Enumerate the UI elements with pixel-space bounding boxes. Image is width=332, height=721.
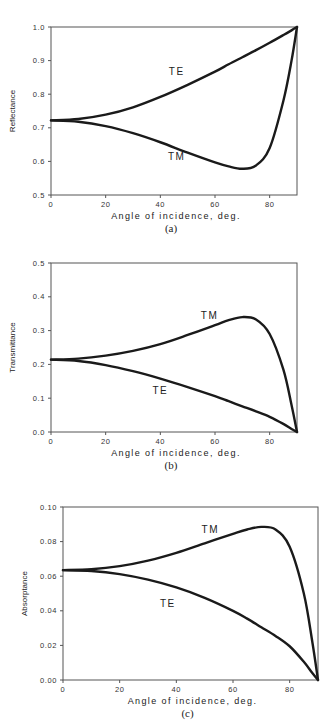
plot-frame bbox=[51, 27, 297, 195]
x-tick-label: 80 bbox=[285, 685, 295, 694]
reflectance-chart: 0.50.60.70.80.91.0020406080Angle of inci… bbox=[0, 0, 332, 240]
chart-panel-b: 0.00.10.20.30.40.5020406080Angle of inci… bbox=[0, 240, 332, 480]
x-tick-label: 80 bbox=[265, 437, 275, 446]
series-label-te: TE bbox=[169, 66, 185, 77]
figure-caption: (a) bbox=[165, 222, 178, 235]
x-tick-label: 60 bbox=[210, 200, 220, 209]
y-tick-label: 0.5 bbox=[33, 191, 45, 200]
y-tick-label: 0.2 bbox=[33, 360, 45, 369]
y-tick-label: 0.0 bbox=[33, 428, 45, 437]
series-label-tm: TM bbox=[168, 151, 185, 162]
series-te-line bbox=[51, 360, 297, 432]
series-te-line bbox=[63, 570, 318, 680]
plot-frame bbox=[51, 263, 297, 432]
x-tick-label: 20 bbox=[101, 437, 111, 446]
y-tick-label: 0.8 bbox=[33, 90, 45, 99]
x-tick-label: 60 bbox=[228, 685, 238, 694]
y-tick-label: 1.0 bbox=[33, 23, 45, 32]
x-axis-label: Angle of incidence, deg. bbox=[128, 696, 258, 706]
series-label-tm: TM bbox=[201, 310, 218, 321]
x-tick-label: 0 bbox=[49, 200, 54, 209]
x-tick-label: 0 bbox=[49, 437, 54, 446]
x-tick-label: 20 bbox=[115, 685, 125, 694]
y-tick-label: 0.06 bbox=[40, 572, 57, 581]
y-tick-label: 0.1 bbox=[33, 394, 45, 403]
y-axis-label: Reflectance bbox=[8, 89, 17, 132]
chart-panel-a: 0.50.60.70.80.91.0020406080Angle of inci… bbox=[0, 0, 332, 240]
figure-caption: (b) bbox=[165, 459, 178, 472]
series-label-te: TE bbox=[160, 598, 176, 609]
figure-caption: (c) bbox=[181, 707, 194, 720]
y-tick-label: 0.3 bbox=[33, 326, 45, 335]
y-tick-label: 0.04 bbox=[40, 606, 57, 615]
x-tick-label: 40 bbox=[172, 685, 182, 694]
x-axis-label: Angle of incidence, deg. bbox=[111, 211, 241, 221]
series-label-tm: TM bbox=[202, 524, 219, 535]
transmittance-chart: 0.00.10.20.30.40.5020406080Angle of inci… bbox=[0, 240, 332, 480]
series-label-te: TE bbox=[152, 385, 168, 396]
y-tick-label: 0.4 bbox=[33, 292, 45, 301]
y-tick-label: 0.00 bbox=[40, 676, 57, 685]
x-tick-label: 0 bbox=[61, 685, 66, 694]
y-axis-label: Absorptance bbox=[20, 570, 29, 615]
y-tick-label: 0.02 bbox=[40, 641, 57, 650]
y-tick-label: 0.9 bbox=[33, 56, 45, 65]
chart-panel-c: 0.000.020.040.060.080.10020406080Angle o… bbox=[0, 481, 332, 721]
x-tick-label: 20 bbox=[101, 200, 111, 209]
y-axis-label: Transmittance bbox=[8, 322, 17, 373]
series-tm-line bbox=[63, 527, 318, 680]
x-axis-label: Angle of incidence, deg. bbox=[111, 448, 241, 458]
x-tick-label: 40 bbox=[156, 200, 166, 209]
y-tick-label: 0.5 bbox=[33, 259, 45, 268]
x-tick-label: 80 bbox=[265, 200, 275, 209]
y-tick-label: 0.10 bbox=[40, 503, 57, 512]
y-tick-label: 0.7 bbox=[33, 123, 45, 132]
y-tick-label: 0.08 bbox=[40, 537, 57, 546]
x-tick-label: 40 bbox=[156, 437, 166, 446]
x-tick-label: 60 bbox=[210, 437, 220, 446]
absorptance-chart: 0.000.020.040.060.080.10020406080Angle o… bbox=[0, 481, 332, 721]
y-tick-label: 0.6 bbox=[33, 157, 45, 166]
series-tm-line bbox=[51, 317, 297, 432]
